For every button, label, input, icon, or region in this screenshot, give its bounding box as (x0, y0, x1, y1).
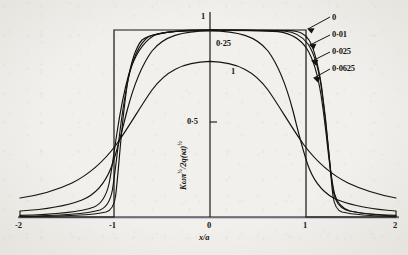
curve-0p25 (20, 31, 396, 211)
curve-label-0p01: 0·01 (332, 29, 347, 39)
curve-0p0625 (20, 30, 396, 216)
y-tick-label-0p5: 0·5 (187, 116, 198, 126)
x-tick-label-minus1: -1 (109, 220, 116, 230)
curve-label-0: 0 (332, 12, 336, 22)
curve-1 (20, 61, 396, 198)
y-axis-title-lead: Kωπ (178, 174, 188, 190)
y-axis-title-tail-exponent: ½ (176, 141, 183, 146)
x-tick-label-1: 1 (303, 220, 307, 230)
leader-line-0p01 (310, 35, 330, 45)
curve-0p025 (20, 30, 396, 216)
curve-0 (20, 30, 396, 217)
leader-arrow-0p0625 (313, 77, 320, 83)
x-tick-label-0: 0 (207, 220, 211, 230)
figure-canvas (0, 0, 408, 255)
curve-label-0p0625: 0·0625 (332, 63, 355, 73)
x-tick-label-minus2: -2 (15, 220, 22, 230)
y-tick-label-1: 1 (201, 11, 205, 21)
curve-label-0p025: 0·025 (332, 46, 351, 56)
leader-line-0 (308, 17, 330, 29)
x-axis-title: x/a (199, 232, 209, 242)
curve-label-0p25: 0·25 (216, 38, 231, 48)
curve-label-1: 1 (231, 66, 235, 76)
y-axis-title-lead-exponent: ½ (176, 169, 183, 174)
y-axis-title: Kωπ½/2q(κt)½ (176, 141, 188, 190)
leader-arrow-0 (307, 28, 315, 33)
x-tick-label-2: 2 (393, 220, 397, 230)
y-axis-title-mid: /2q(κt) (178, 146, 188, 169)
curve-0p01 (20, 30, 396, 216)
